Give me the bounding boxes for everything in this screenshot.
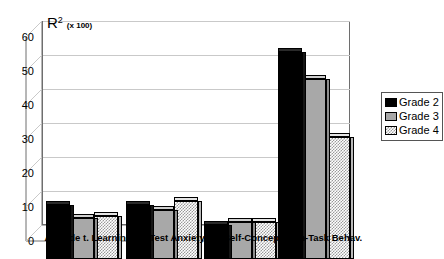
x-axis-label-on-task: On-Task Behav. [272, 232, 382, 243]
bar-face [278, 52, 302, 259]
bar-side-face [198, 201, 202, 259]
chart-title: R2 (x 100) [47, 14, 92, 31]
bar-top-face [46, 201, 70, 205]
chart-title-main: R [47, 14, 58, 31]
bar-top-face [126, 201, 150, 205]
bar-chart: 60 50 40 30 20 10 0 R2 (x 100) Attitude … [0, 0, 444, 259]
legend-label: Grade 4 [399, 125, 439, 136]
legend-item-grade-2: Grade 2 [385, 95, 439, 109]
bar-top-face [204, 221, 228, 225]
bar-top-face [174, 197, 198, 201]
y-tick-label: 20 [4, 168, 34, 179]
legend-item-grade-3: Grade 3 [385, 109, 439, 123]
y-tick-label: 30 [4, 134, 34, 145]
bar-grade-2 [278, 52, 302, 259]
y-axis: 60 50 40 30 20 10 0 [0, 0, 34, 259]
bar-group-self-concept [204, 55, 276, 259]
legend-item-grade-4: Grade 4 [385, 123, 439, 137]
bar-group-on-task [278, 55, 350, 259]
y-tick-label: 60 [4, 32, 34, 43]
bar-group-attitude [46, 55, 118, 259]
legend: Grade 2 Grade 3 Grade 4 [381, 92, 443, 141]
bar-top-face [94, 212, 118, 216]
y-tick-label: 40 [4, 100, 34, 111]
y-tick-label: 50 [4, 66, 34, 77]
bar-group-test-anxiety [126, 55, 198, 259]
legend-swatch-icon [385, 126, 397, 135]
bar-top-face [228, 218, 252, 222]
chart-title-superscript: 2 [58, 15, 63, 25]
bar-side-face [302, 52, 306, 259]
legend-label: Grade 3 [399, 111, 439, 122]
legend-swatch-icon [385, 98, 397, 107]
legend-swatch-icon [385, 112, 397, 121]
chart-title-unit: (x 100) [67, 21, 92, 30]
y-tick-label: 10 [4, 202, 34, 213]
legend-label: Grade 2 [399, 97, 439, 108]
bar-top-face [278, 48, 302, 52]
